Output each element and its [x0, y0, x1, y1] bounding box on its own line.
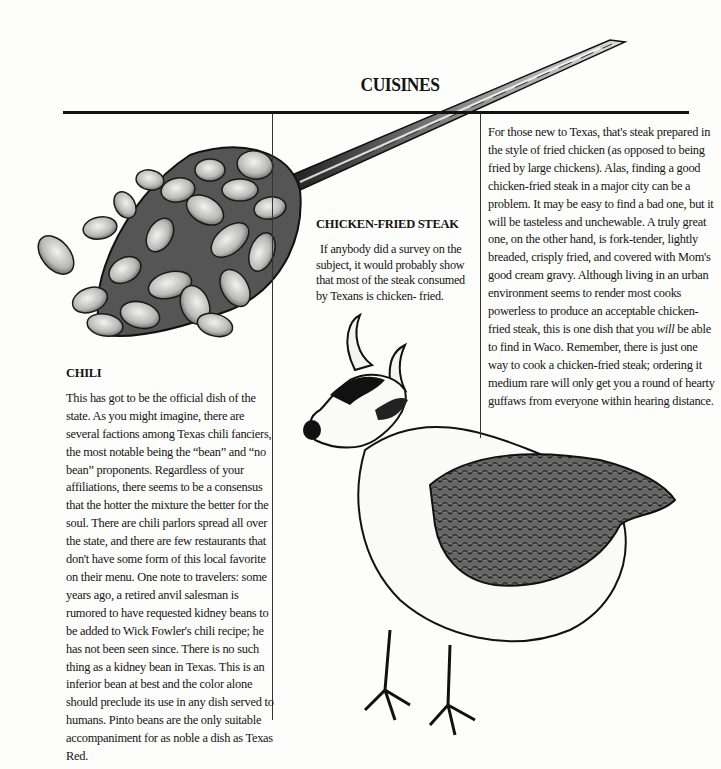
- chicken-fried-steak-intro: If anybody did a survey on the subject, …: [316, 242, 478, 304]
- page-title: CUISINES: [308, 74, 492, 96]
- body-part-1: For those new to Texas, that's steak pre…: [488, 125, 714, 336]
- chicken-fried-steak-intro-column: CHICKEN-FRIED STEAK If anybody did a sur…: [316, 216, 478, 304]
- chicken-fried-steak-body-column: For those new to Texas, that's steak pre…: [488, 124, 716, 411]
- chili-body: This has got to be the official dish of …: [66, 390, 276, 766]
- column-divider-right: [480, 113, 481, 438]
- chicken-fried-steak-body: For those new to Texas, that's steak pre…: [488, 124, 716, 411]
- chili-heading: CHILI: [66, 365, 276, 383]
- body-emphasis: will: [657, 322, 675, 336]
- header-rule: [63, 111, 689, 114]
- chili-column: CHILI This has got to be the official di…: [66, 365, 276, 766]
- chicken-fried-steak-heading: CHICKEN-FRIED STEAK: [316, 216, 478, 234]
